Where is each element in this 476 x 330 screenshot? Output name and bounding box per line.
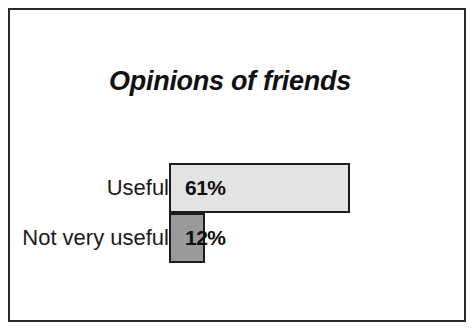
bar-useful: 61%: [169, 163, 350, 213]
plot-area: Useful 61% Not very useful 12%: [10, 150, 468, 280]
category-label-not-very-useful: Not very useful: [0, 213, 169, 263]
bar-value-not-very-useful: 12%: [171, 226, 226, 250]
chart-title: Opinions of friends: [10, 66, 450, 97]
bar-row-not-very-useful: Not very useful 12%: [10, 213, 468, 263]
category-label-useful: Useful: [0, 163, 169, 213]
bar-not-very-useful: 12%: [169, 213, 205, 263]
bar-row-useful: Useful 61%: [10, 163, 468, 213]
bar-value-useful: 61%: [171, 176, 226, 200]
chart-frame: Opinions of friends Useful 61% Not very …: [8, 8, 466, 322]
